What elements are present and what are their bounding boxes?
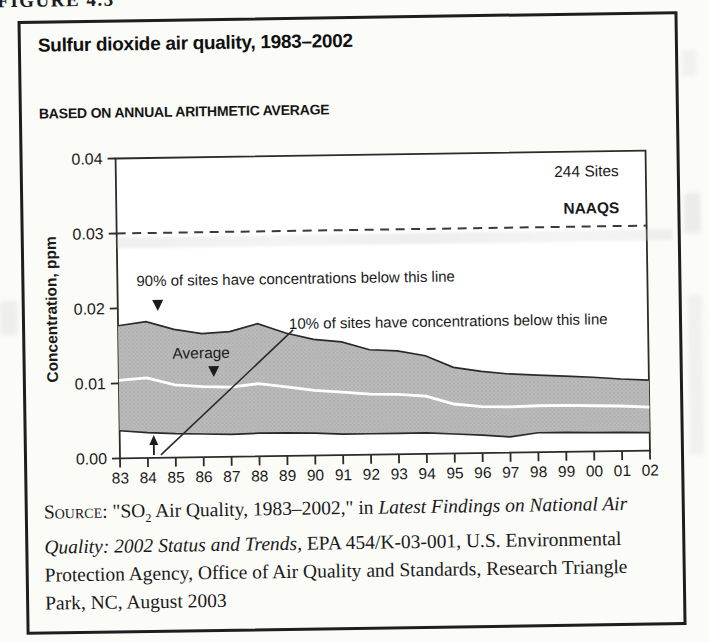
source-citation: Source: "SO2 Air Quality, 1983–2002," in… xyxy=(44,490,652,618)
y-axis-ticks: 0.000.010.020.030.04 xyxy=(71,150,120,468)
x-tick-label: 93 xyxy=(390,465,408,482)
chart-svg: 0.000.010.020.030.04 8384858687888990919… xyxy=(0,0,707,505)
y-tick-label: 0.04 xyxy=(71,150,102,167)
source-text-2: Air Quality, 1983–2002," in xyxy=(151,497,378,521)
x-tick-label: 00 xyxy=(586,462,604,479)
x-tick-label: 92 xyxy=(363,466,381,483)
y-tick-label: 0.01 xyxy=(75,375,106,392)
x-tick-label: 96 xyxy=(474,464,492,481)
x-tick-label: 85 xyxy=(167,468,185,485)
x-tick-label: 02 xyxy=(641,461,659,478)
x-tick-label: 99 xyxy=(558,463,576,480)
x-tick-label: 90 xyxy=(307,466,325,483)
x-tick-label: 01 xyxy=(614,462,632,479)
site-count-label: 244 Sites xyxy=(554,162,619,180)
source-text-1: "SO xyxy=(107,500,145,522)
y-tick-label: 0.03 xyxy=(72,225,103,242)
x-tick-label: 89 xyxy=(279,467,297,484)
y-tick-label: 0.00 xyxy=(76,450,107,467)
x-tick-label: 83 xyxy=(112,469,130,486)
average-annotation: Average xyxy=(172,344,230,362)
x-tick-label: 87 xyxy=(223,468,241,485)
x-tick-label: 94 xyxy=(418,465,436,482)
x-tick-label: 91 xyxy=(335,466,353,483)
naaqs-label: NAAQS xyxy=(563,199,619,217)
y-tick-label: 0.02 xyxy=(74,300,105,317)
x-tick-label: 97 xyxy=(502,464,520,481)
scanned-figure: FIGURE 4.3 Sulfur dioxide air quality, 1… xyxy=(0,0,709,642)
x-tick-label: 95 xyxy=(446,464,464,481)
x-tick-label: 86 xyxy=(195,468,213,485)
source-label: Source: xyxy=(44,501,108,523)
x-tick-label: 88 xyxy=(251,467,269,484)
y-axis-title: Concentration, ppm xyxy=(42,236,61,383)
x-tick-label: 84 xyxy=(139,469,157,486)
x-tick-label: 98 xyxy=(530,463,548,480)
